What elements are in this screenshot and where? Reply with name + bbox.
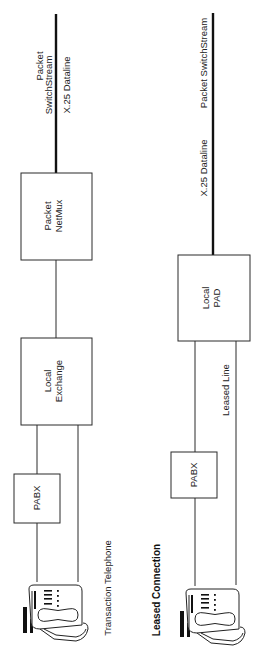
netmux-label-line1: Packet	[42, 201, 53, 230]
leased-connection-diagram: Packet SwitchStream X.25 Dataline Local …	[151, 13, 250, 645]
transaction-telephone-caption: Transaction Telephone	[102, 540, 113, 636]
network-diagram: Packet SwitchStream X.25 Dataline Packet…	[0, 0, 276, 664]
telephone-icon	[180, 589, 245, 645]
packet-switchstream-label-leased: Packet SwitchStream	[198, 18, 209, 108]
telephone-icon	[23, 585, 88, 641]
exchange-label-line2: Exchange	[53, 360, 64, 402]
pad-label-line1: Local	[200, 287, 211, 310]
packet-switchstream-label-line2: SwitchStream	[43, 56, 54, 115]
exchange-label-line1: Local	[42, 370, 53, 393]
transaction-telephone-diagram: Packet SwitchStream X.25 Dataline Packet…	[14, 14, 113, 641]
pabx-label-transaction: PABX	[31, 485, 42, 510]
x25-dataline-label-transaction: X.25 Dataline	[61, 56, 72, 113]
pad-label-line2: PAD	[211, 288, 222, 307]
pabx-label-leased: PABX	[188, 462, 199, 487]
leased-line-label: Leased Line	[220, 364, 231, 416]
x25-dataline-label-leased: X.25 Dataline	[198, 139, 209, 196]
netmux-label-line2: NetMux	[53, 199, 64, 232]
leased-connection-caption: Leased Connection	[151, 544, 162, 636]
